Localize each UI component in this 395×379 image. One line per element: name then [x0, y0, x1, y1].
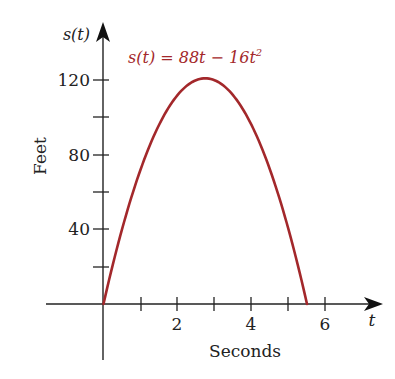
- x-tick-label: 4: [246, 314, 257, 334]
- equation-exponent: 2: [255, 47, 262, 58]
- x-tick-label: 6: [320, 314, 331, 334]
- x-tick-labels: 2 4 6: [172, 314, 331, 334]
- y-tick-label: 80: [68, 145, 90, 165]
- equation-main: s(t) = 88t − 16t: [128, 48, 256, 67]
- y-tick-label: 40: [68, 219, 90, 239]
- parabola-curve: [104, 78, 308, 304]
- y-tick-label: 120: [58, 70, 90, 90]
- parabola-chart: 2 4 6 40 80 120 s(t) t Seconds Feet s(t)…: [0, 0, 395, 379]
- axes: [46, 34, 372, 360]
- x-axis-title: Seconds: [209, 341, 281, 361]
- x-tick-label: 2: [172, 314, 183, 334]
- y-axis-title: Feet: [30, 137, 50, 175]
- y-axis-variable: s(t): [63, 25, 90, 44]
- y-tick-labels: 40 80 120: [58, 70, 90, 239]
- x-axis-variable: t: [369, 310, 376, 330]
- y-ticks: [93, 80, 109, 267]
- equation-label: s(t) = 88t − 16t2: [128, 47, 262, 67]
